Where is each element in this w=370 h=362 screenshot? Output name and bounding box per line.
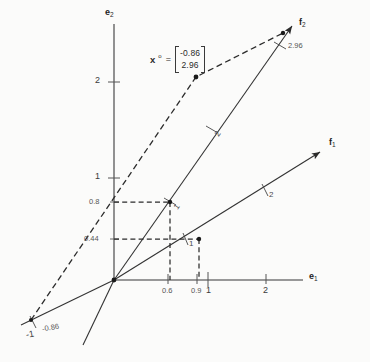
vector-superscript: o <box>158 53 161 59</box>
axis-label-f1: f1 <box>329 138 336 147</box>
tick-e2-1: 1 <box>95 172 100 181</box>
vector-symbol: x <box>150 54 155 65</box>
axis-e2 <box>108 24 120 280</box>
axis-label-f2: f2 <box>299 18 306 27</box>
tick-e1-0_6: 0.6 <box>162 287 172 295</box>
tick-f1-1: 1 <box>189 240 193 248</box>
marked-points <box>29 31 285 322</box>
axis-label-e2: e2 <box>105 8 114 17</box>
axis-label-f1-sub: 1 <box>332 141 336 148</box>
tick-e1-0_9: 0.9 <box>191 287 201 295</box>
tick-e2-2: 2 <box>95 76 100 85</box>
tick-e1-2: 2 <box>263 286 268 295</box>
point-tip <box>281 31 285 35</box>
tick-f2-endpoint: 2.96 <box>288 42 303 50</box>
point-f1-unit <box>197 237 201 241</box>
axis-label-f2-sub: 2 <box>302 21 306 28</box>
axis-f1 <box>21 152 320 328</box>
vector-annotation: xo = -0.86 2.96 <box>150 46 205 73</box>
axis-label-e1: e1 <box>309 272 318 281</box>
tick-e2-0_44: 0.44 <box>84 235 99 243</box>
axis-label-e2-sub: 2 <box>110 11 114 18</box>
point-negative <box>29 318 33 322</box>
equals-sign: = <box>165 54 172 64</box>
figure-root: xo = -0.86 2.96 e2 e1 f1 f2 2 1 0.8 0.44… <box>0 0 370 362</box>
point-bend <box>194 75 199 80</box>
vector-row-1: -0.86 <box>180 47 200 59</box>
vector-matrix: -0.86 2.96 <box>175 46 205 73</box>
tick-f1-2: 2 <box>269 191 273 199</box>
vector-row-2: 2.96 <box>180 59 200 71</box>
tick-e2-0_8: 0.8 <box>89 198 99 206</box>
tick-e1-1: 1 <box>206 286 211 295</box>
point-f2-unit <box>168 200 172 204</box>
construction-path <box>31 33 283 320</box>
origin-point <box>112 278 117 283</box>
axis-label-e1-sub: 1 <box>314 275 318 282</box>
tick-f1-negative: -1 <box>25 329 34 339</box>
